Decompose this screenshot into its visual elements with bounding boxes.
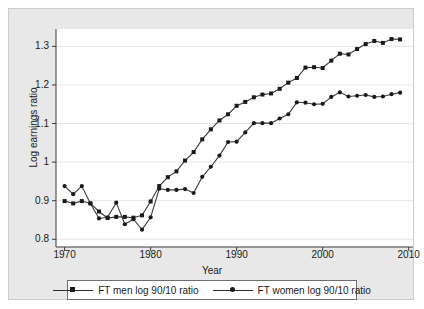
x-axis-tick-labels: 19701980199020002010 bbox=[9, 249, 415, 265]
circle-marker-icon bbox=[213, 285, 253, 295]
legend-entry-men[interactable]: FT men log 90/10 ratio bbox=[53, 285, 198, 296]
x-tick-label: 2010 bbox=[398, 249, 420, 260]
legend-label-women: FT women log 90/10 ratio bbox=[258, 285, 371, 296]
chart-figure: 0.80.911.11.21.3 Log earnings ratio 1970… bbox=[0, 0, 424, 309]
legend-label-men: FT men log 90/10 ratio bbox=[98, 285, 198, 296]
legend-entry-women[interactable]: FT women log 90/10 ratio bbox=[213, 285, 371, 296]
square-marker-icon bbox=[53, 285, 93, 295]
x-tick-label: 2000 bbox=[312, 249, 334, 260]
x-tick-label: 1990 bbox=[226, 249, 248, 260]
x-tick-label: 1970 bbox=[53, 249, 75, 260]
figure-canvas: 0.80.911.11.21.3 Log earnings ratio 1970… bbox=[8, 8, 414, 300]
chart-legend: FT men log 90/10 ratio FT women log 90/1… bbox=[67, 280, 357, 300]
x-tick-label: 1980 bbox=[140, 249, 162, 260]
x-axis-title: Year bbox=[9, 265, 415, 276]
